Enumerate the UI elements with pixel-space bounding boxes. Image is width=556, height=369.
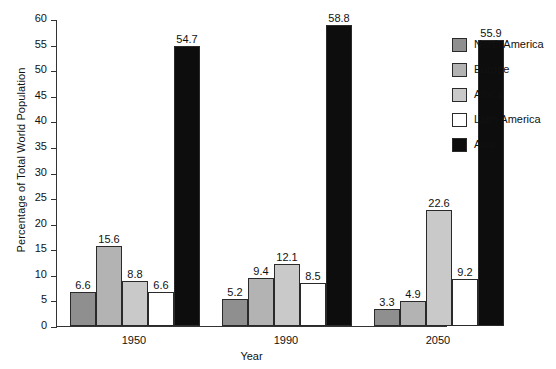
legend-swatch-icon [452, 63, 467, 77]
y-tick-mark [51, 250, 57, 251]
bar-africa-2050[interactable]: 22.6 [426, 210, 452, 326]
x-category-label-2050: 2050 [373, 334, 503, 346]
bar-europe-2050[interactable]: 4.9 [400, 301, 426, 326]
y-tick-mark [51, 199, 57, 200]
bar-asia-1950[interactable]: 54.7 [174, 46, 200, 326]
y-tick-label: 40 [35, 114, 47, 126]
bar-chart: Percentage of Total World Population 051… [0, 0, 556, 369]
bar-value-label: 9.4 [253, 265, 268, 277]
y-tick-label: 55 [35, 38, 47, 50]
y-tick-mark [51, 20, 57, 21]
legend-item-latin-america[interactable]: Latin America [452, 111, 556, 136]
bar-value-label: 6.6 [75, 279, 90, 291]
y-tick-label: 5 [41, 293, 47, 305]
y-tick-mark [51, 122, 57, 123]
bar-north-america-1950[interactable]: 6.6 [70, 292, 96, 326]
legend-label: Africa [474, 86, 502, 103]
legend-item-africa[interactable]: Africa [452, 86, 556, 111]
legend-label: Asia [474, 136, 495, 153]
bar-value-label: 54.7 [176, 33, 197, 45]
y-tick-mark [51, 225, 57, 226]
bar-north-america-1990[interactable]: 5.2 [222, 299, 248, 326]
y-tick-mark [51, 148, 57, 149]
bar-europe-1950[interactable]: 15.6 [96, 246, 122, 326]
plot-area: 051015202530354045505560 6.615.68.86.654… [56, 20, 447, 327]
bar-group-1990: 5.29.412.18.558.8 [222, 20, 352, 326]
bar-latin-america-1990[interactable]: 8.5 [300, 283, 326, 326]
y-tick-label: 25 [35, 191, 47, 203]
bar-value-label: 15.6 [98, 233, 119, 245]
bar-value-label: 4.9 [405, 288, 420, 300]
bar-value-label: 3.3 [379, 296, 394, 308]
bar-value-label: 22.6 [428, 197, 449, 209]
y-axis-title: Percentage of Total World Population [14, 10, 28, 310]
bar-value-label: 58.8 [328, 12, 349, 24]
bar-asia-1990[interactable]: 58.8 [326, 25, 352, 326]
legend-swatch-icon [452, 88, 467, 102]
y-tick-mark [51, 174, 57, 175]
legend-label: Latin America [474, 111, 541, 128]
y-tick-label: 45 [35, 89, 47, 101]
x-axis-title: Year [56, 350, 447, 362]
bar-latin-america-1950[interactable]: 6.6 [148, 292, 174, 326]
y-tick-mark [51, 301, 57, 302]
legend-item-europe[interactable]: Europe [452, 61, 556, 86]
y-tick-label: 0 [41, 319, 47, 331]
y-tick-label: 60 [35, 12, 47, 24]
bar-value-label: 8.5 [305, 270, 320, 282]
legend-item-north-america[interactable]: North America [452, 36, 556, 61]
legend-swatch-icon [452, 38, 467, 52]
y-tick-mark [51, 46, 57, 47]
bar-value-label: 8.8 [127, 268, 142, 280]
bar-value-label: 5.2 [227, 286, 242, 298]
y-tick-label: 30 [35, 166, 47, 178]
bar-africa-1950[interactable]: 8.8 [122, 281, 148, 326]
legend-swatch-icon [452, 113, 467, 127]
y-tick-label: 20 [35, 217, 47, 229]
bar-value-label: 6.6 [153, 279, 168, 291]
y-tick-label: 50 [35, 63, 47, 75]
y-tick-mark [51, 71, 57, 72]
y-tick-mark [51, 97, 57, 98]
bar-group-1950: 6.615.68.86.654.7 [70, 20, 200, 326]
y-tick-mark [51, 327, 57, 328]
x-category-label-1950: 1950 [69, 334, 199, 346]
y-tick-label: 10 [35, 268, 47, 280]
legend-item-asia[interactable]: Asia [452, 136, 556, 161]
y-tick-mark [51, 276, 57, 277]
bar-north-america-2050[interactable]: 3.3 [374, 309, 400, 326]
legend-label: Europe [474, 61, 509, 78]
x-category-label-1990: 1990 [221, 334, 351, 346]
bar-africa-1990[interactable]: 12.1 [274, 264, 300, 326]
bar-latin-america-2050[interactable]: 9.2 [452, 279, 478, 326]
y-tick-label: 35 [35, 140, 47, 152]
y-tick-label: 15 [35, 242, 47, 254]
bar-value-label: 9.2 [457, 266, 472, 278]
bar-value-label: 12.1 [276, 251, 297, 263]
legend-label: North America [474, 36, 544, 53]
legend-swatch-icon [452, 138, 467, 152]
bar-europe-1990[interactable]: 9.4 [248, 278, 274, 326]
legend: North AmericaEuropeAfricaLatin AmericaAs… [452, 36, 556, 161]
